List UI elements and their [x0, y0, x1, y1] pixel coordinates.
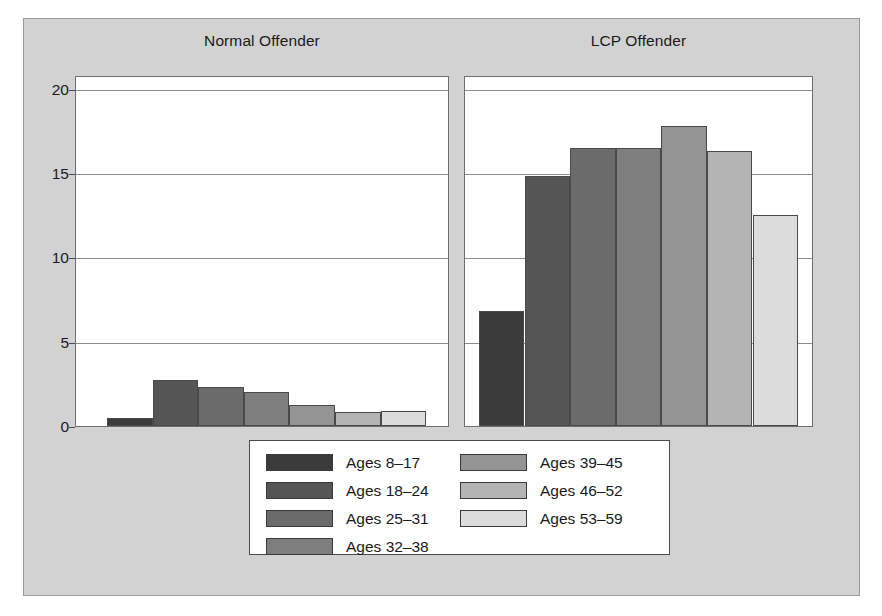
- legend-label: Ages 32–38: [346, 538, 429, 556]
- plot-area-normal-offender: [76, 77, 448, 426]
- legend-item: Ages 8–17: [266, 450, 429, 475]
- legend-swatch: [266, 454, 333, 471]
- bar: [570, 148, 616, 426]
- legend-swatch: [460, 482, 527, 499]
- bar: [661, 126, 707, 426]
- bar: [479, 311, 525, 426]
- bar: [289, 405, 335, 426]
- legend: Ages 8–17Ages 18–24Ages 25–31Ages 32–38 …: [249, 440, 670, 555]
- plot-panel-lcp-offender: [464, 76, 813, 427]
- plot-panel-normal-offender: [75, 76, 449, 427]
- y-axis-tick-label: 10: [23, 249, 69, 267]
- gridline: [465, 90, 812, 91]
- y-axis-tick-mark: [69, 258, 75, 259]
- legend-item: Ages 46–52: [460, 478, 623, 503]
- y-axis-tick-mark: [69, 427, 75, 428]
- bar: [244, 392, 290, 426]
- legend-label: Ages 25–31: [346, 510, 429, 528]
- gridline: [76, 90, 448, 91]
- legend-item: Ages 25–31: [266, 506, 429, 531]
- legend-column-1: Ages 8–17Ages 18–24Ages 25–31Ages 32–38: [266, 450, 429, 562]
- bar: [381, 411, 427, 426]
- figure-root: Normal Offender LCP Offender 05101520 Ag…: [0, 0, 882, 616]
- legend-item: Ages 18–24: [266, 478, 429, 503]
- legend-swatch: [460, 454, 527, 471]
- legend-swatch: [266, 482, 333, 499]
- gridline: [76, 174, 448, 175]
- bar: [153, 380, 199, 426]
- legend-label: Ages 39–45: [540, 454, 623, 472]
- y-axis-tick-label: 20: [23, 81, 69, 99]
- bar: [707, 151, 753, 426]
- panel-title-lcp-offender: LCP Offender: [464, 32, 813, 50]
- legend-item: Ages 53–59: [460, 506, 623, 531]
- legend-swatch: [266, 538, 333, 555]
- bar: [198, 387, 244, 426]
- bar: [616, 148, 662, 426]
- y-axis: 05101520: [23, 0, 69, 616]
- y-axis-tick-mark: [69, 343, 75, 344]
- bar: [753, 215, 799, 426]
- legend-column-2: Ages 39–45Ages 46–52Ages 53–59: [460, 450, 623, 534]
- bar: [107, 418, 153, 426]
- y-axis-tick-mark: [69, 174, 75, 175]
- legend-swatch: [266, 510, 333, 527]
- legend-swatch: [460, 510, 527, 527]
- plot-area-lcp-offender: [465, 77, 812, 426]
- y-axis-tick-label: 15: [23, 165, 69, 183]
- legend-item: Ages 39–45: [460, 450, 623, 475]
- legend-label: Ages 53–59: [540, 510, 623, 528]
- legend-label: Ages 8–17: [346, 454, 420, 472]
- bar: [335, 412, 381, 426]
- y-axis-tick-label: 0: [23, 418, 69, 436]
- bar: [525, 176, 571, 426]
- legend-label: Ages 46–52: [540, 482, 623, 500]
- gridline: [76, 258, 448, 259]
- legend-item: Ages 32–38: [266, 534, 429, 559]
- panel-title-normal-offender: Normal Offender: [75, 32, 449, 50]
- y-axis-tick-mark: [69, 90, 75, 91]
- gridline: [76, 343, 448, 344]
- y-axis-tick-label: 5: [23, 334, 69, 352]
- legend-label: Ages 18–24: [346, 482, 429, 500]
